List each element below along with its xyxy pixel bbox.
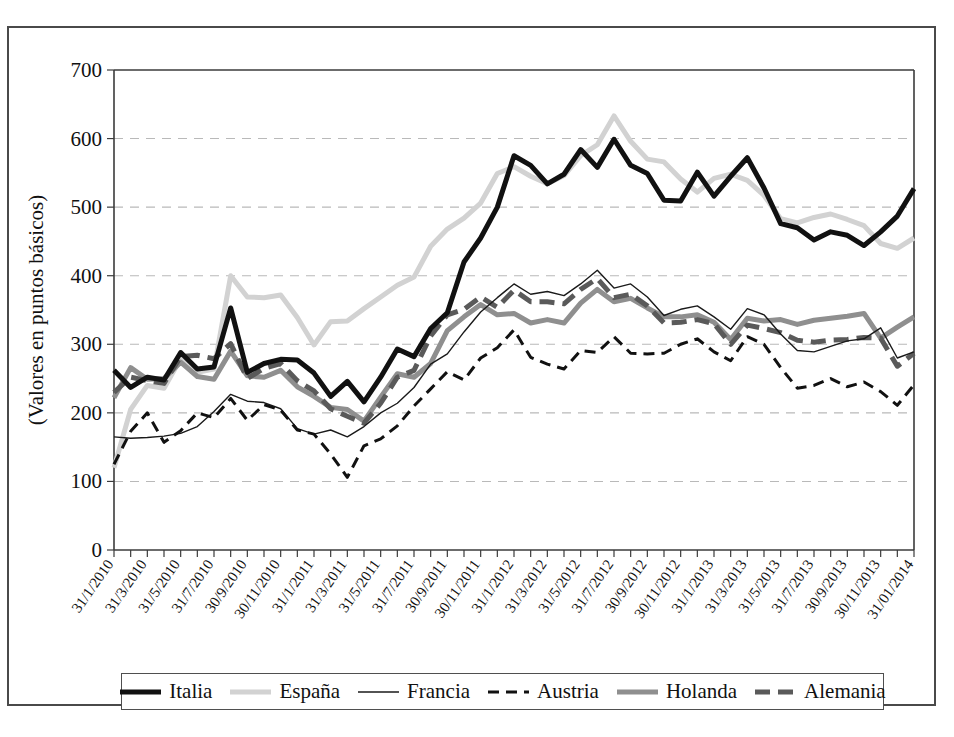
legend-swatch-francia-icon xyxy=(357,685,400,699)
y-tick-label: 0 xyxy=(92,538,103,562)
legend-entry-alemania: Alemania xyxy=(754,679,886,704)
chart-area: 0100200300400500600700 31/1/201031/3/201… xyxy=(9,28,938,708)
line-chart-plot: 0100200300400500600700 31/1/201031/3/201… xyxy=(9,28,938,708)
legend-swatch-austria-icon xyxy=(487,685,530,699)
grid-lines xyxy=(114,139,914,482)
legend-entry-holanda: Holanda xyxy=(616,679,737,704)
y-tick-label: 200 xyxy=(71,401,103,425)
series-line-italia xyxy=(114,139,914,402)
legend-swatch-españa-icon xyxy=(229,685,272,699)
y-tick-label: 100 xyxy=(71,469,103,493)
legend-entry-españa: España xyxy=(229,679,340,704)
data-series-group xyxy=(114,116,914,477)
legend-label: Italia xyxy=(169,679,212,704)
legend-label: Alemania xyxy=(804,679,886,704)
legend-entry-francia: Francia xyxy=(357,679,470,704)
y-axis-title: (Valores en puntos básicos) xyxy=(24,195,48,425)
series-line-españa xyxy=(114,116,914,468)
y-tick-label: 500 xyxy=(71,195,103,219)
legend-entry-italia: Italia xyxy=(119,679,212,704)
axes xyxy=(114,70,914,550)
x-axis-tick-labels: 31/1/201031/3/201031/5/201031/7/201030/9… xyxy=(68,556,916,622)
legend-entry-austria: Austria xyxy=(487,679,599,704)
legend-swatch-alemania-icon xyxy=(754,685,797,699)
legend-label: Holanda xyxy=(666,679,737,704)
y-tick-label: 400 xyxy=(71,264,103,288)
legend-label: Austria xyxy=(537,679,599,704)
chart-legend: ItaliaEspañaFranciaAustriaHolandaAlemani… xyxy=(121,673,884,710)
y-tick-label: 600 xyxy=(71,127,103,151)
figure-frame: 0100200300400500600700 31/1/201031/3/201… xyxy=(7,26,936,706)
legend-label: Francia xyxy=(407,679,470,704)
y-axis-tick-labels: 0100200300400500600700 xyxy=(71,58,103,562)
legend-swatch-holanda-icon xyxy=(616,685,659,699)
legend-label: España xyxy=(279,679,340,704)
y-axis-title-text: (Valores en puntos básicos) xyxy=(24,195,48,425)
legend-swatch-italia-icon xyxy=(119,685,162,699)
y-tick-label: 700 xyxy=(71,58,103,82)
y-tick-label: 300 xyxy=(71,332,103,356)
